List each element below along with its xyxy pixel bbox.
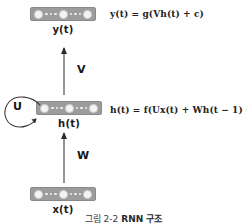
neuron-node (34, 190, 43, 199)
neuron-node (89, 104, 98, 113)
layer-block-input (30, 187, 96, 201)
arrow-w-head (61, 132, 67, 139)
figure-caption-title: RNN 구조 (121, 214, 162, 224)
neuron-node (83, 10, 92, 19)
neuron-ellipsis (43, 193, 59, 196)
figure-caption-number: 그림 2-2 (85, 214, 119, 224)
neuron-node (65, 104, 74, 113)
neuron-node (83, 190, 92, 199)
neuron-dot (70, 193, 73, 196)
layer-block-output (30, 7, 96, 21)
neuron-dot (80, 107, 83, 110)
arrow-w-shaft (63, 133, 64, 183)
neuron-dot (50, 13, 53, 16)
neuron-dot (74, 13, 77, 16)
neuron-dot (79, 193, 82, 196)
arrow-v-head (61, 47, 67, 54)
neuron-dot (76, 107, 79, 110)
neuron-ellipsis (74, 107, 90, 110)
figure-caption: 그림 2-2 RNN 구조 (0, 212, 247, 224)
weight-label-u: U (13, 100, 22, 113)
neuron-dot (50, 193, 53, 196)
neuron-ellipsis (68, 193, 84, 196)
equation-hidden: h(t) = f(Ux(t) + Wh(t − 1) + b) (110, 105, 247, 115)
neuron-dot (85, 107, 88, 110)
neuron-dot (45, 13, 48, 16)
weight-label-w: W (77, 149, 89, 162)
neuron-dot (54, 193, 57, 196)
equation-output: y(t) = g(Vh(t) + c) (110, 9, 204, 19)
rnn-diagram-figure: y(t) y(t) = g(Vh(t) + c) V h(t) h(t) = f… (0, 0, 247, 224)
neuron-node (59, 10, 68, 19)
neuron-dot (56, 107, 59, 110)
neuron-dot (60, 107, 63, 110)
weight-label-v: V (77, 63, 86, 76)
arrow-v (59, 48, 68, 95)
neuron-dot (79, 13, 82, 16)
neuron-ellipsis (68, 13, 84, 16)
neuron-dot (54, 13, 57, 16)
arrow-v-shaft (63, 48, 64, 95)
recurrent-loop-u (2, 84, 54, 136)
neuron-dot (45, 193, 48, 196)
neuron-dot (74, 193, 77, 196)
neuron-node (59, 190, 68, 199)
neuron-ellipsis (43, 13, 59, 16)
neuron-dot (70, 13, 73, 16)
arrow-w (59, 133, 68, 183)
layer-label-output: y(t) (30, 24, 96, 35)
neuron-node (34, 10, 43, 19)
